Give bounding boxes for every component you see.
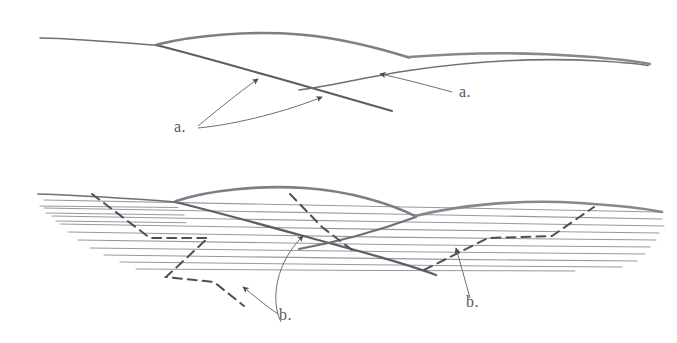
thrust-sheet-arc-bottom-2 [415,202,662,216]
label-b-right: b. [466,293,479,311]
leader-b3 [456,248,470,298]
geology-sketch-svg [0,0,677,343]
lower-bedding-lines [40,200,664,271]
leader-a1 [198,79,258,126]
upper-cross-section [40,33,650,111]
sketch-canvas: a. a. b. b. [0,0,677,343]
leader-a2 [198,97,322,128]
erosion-surface-right-top [299,60,648,90]
thrust-sheet-arc-top [157,33,409,57]
thrust-trace-top [156,45,392,111]
label-a-right: a. [459,83,471,101]
upper-annotation-arrows [198,74,452,128]
lower-annotation-arrows [243,236,470,322]
label-b-left: b. [279,306,292,324]
label-a-left: a. [174,118,186,136]
leader-b1 [243,287,278,314]
topographic-surface-left-top [40,38,157,46]
lower-dashed-faults [92,194,594,306]
leader-a3 [380,74,452,92]
